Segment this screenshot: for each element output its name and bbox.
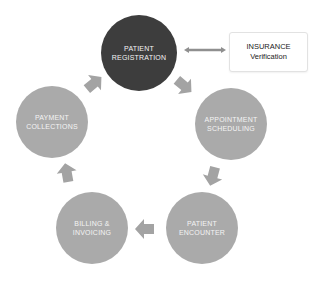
node-label-line2: SCHEDULING — [207, 124, 255, 133]
arrow-registration-to-appointment — [170, 72, 197, 100]
node-label-line2: REGISTRATION — [112, 53, 166, 62]
side-box-line1: INSURANCE — [246, 42, 290, 52]
node-billing-invoicing: BILLING & INVOICING — [56, 192, 128, 264]
node-patient-registration: PATIENT REGISTRATION — [101, 15, 177, 91]
node-label-line2: INVOICING — [73, 228, 111, 237]
node-label-line1: BILLING & — [74, 219, 109, 228]
node-label-line2: COLLECTIONS — [26, 122, 78, 131]
double-arrow-registration-insurance — [184, 47, 226, 53]
insurance-verification-box: INSURANCE Verification — [229, 32, 308, 72]
node-label-line1: PATIENT — [124, 44, 154, 53]
arrow-encounter-to-billing — [135, 219, 154, 239]
arrow-payment-to-registration — [80, 69, 107, 97]
node-label-line1: APPOINTMENT — [205, 115, 258, 124]
node-label-line1: PAYMENT — [35, 113, 69, 122]
node-patient-encounter: PATIENT ENCOUNTER — [166, 192, 238, 264]
node-label-line2: ENCOUNTER — [179, 228, 225, 237]
side-box-line2: Verification — [250, 52, 287, 62]
arrow-billing-to-payment — [55, 161, 78, 183]
node-label-line1: PATIENT — [187, 219, 217, 228]
node-appointment-scheduling: APPOINTMENT SCHEDULING — [195, 88, 267, 160]
node-payment-collections: PAYMENT COLLECTIONS — [16, 86, 88, 158]
revenue-cycle-diagram: PATIENT REGISTRATION APPOINTMENT SCHEDUL… — [0, 0, 327, 288]
arrow-appointment-to-encounter — [200, 165, 224, 189]
